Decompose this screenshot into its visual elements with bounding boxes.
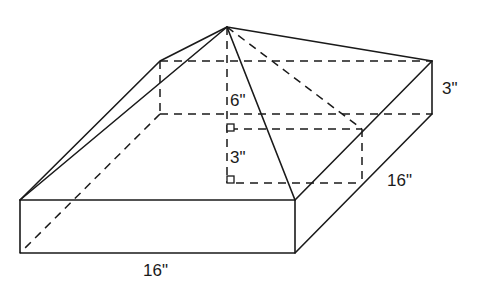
label-depth: 16": [387, 171, 412, 190]
label-box-height: 3": [442, 79, 458, 98]
left-bottom-diagonal: [20, 114, 160, 253]
hidden-edges: [20, 27, 432, 253]
front-face: [20, 200, 295, 253]
box-pyramid-diagram: 6" 3" 3" 16" 16": [0, 0, 478, 292]
label-inner-height: 3": [230, 148, 246, 167]
back-right-roof-edge: [227, 27, 432, 61]
right-angle-marker-lower: [227, 176, 234, 183]
label-pyramid-height: 6": [230, 91, 246, 110]
right-angle-marker-upper: [227, 124, 234, 131]
label-width: 16": [143, 261, 168, 280]
